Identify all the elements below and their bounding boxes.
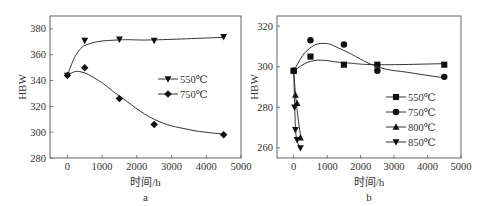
data-point-marker	[292, 91, 299, 97]
x-tick-label: 2000	[126, 161, 147, 172]
chart-panel-a: 010002000300040005000280300320340360380时…	[16, 16, 252, 203]
x-tick-label: 4000	[417, 161, 438, 172]
legend-item: 550℃	[158, 74, 208, 85]
x-tick-label: 3000	[384, 161, 405, 172]
data-point-marker	[151, 38, 158, 44]
data-point-marker	[307, 54, 313, 60]
y-tick-label: 340	[30, 75, 46, 86]
data-point-marker	[292, 127, 299, 133]
x-tick-label: 5000	[231, 161, 252, 172]
data-point-marker	[441, 62, 447, 68]
y-tick-label: 300	[30, 127, 46, 138]
legend-marker-icon	[164, 90, 171, 97]
legend-label: 750℃	[180, 89, 208, 100]
y-tick-label: 280	[257, 102, 273, 113]
x-tick-label: 1000	[317, 161, 338, 172]
legend-marker-icon	[393, 123, 400, 129]
data-point-marker	[81, 64, 88, 71]
data-point-marker	[441, 74, 447, 80]
data-point-marker	[341, 41, 347, 47]
legend-item: 850℃	[386, 137, 436, 148]
y-tick-label: 320	[30, 101, 46, 112]
legend-marker-icon	[393, 94, 399, 100]
legend-label: 550℃	[408, 92, 436, 103]
y-axis-label: HBW	[248, 74, 260, 100]
figure: 010002000300040005000280300320340360380时…	[0, 0, 482, 206]
y-tick-label: 320	[257, 21, 273, 32]
data-point-marker	[150, 121, 157, 128]
data-point-marker	[116, 95, 123, 102]
legend-label: 850℃	[408, 137, 436, 148]
legend-marker-icon	[393, 109, 399, 115]
x-tick-label: 1000	[92, 161, 113, 172]
y-tick-label: 300	[257, 61, 273, 72]
legend-item: 800℃	[386, 122, 436, 133]
y-tick-label: 360	[30, 49, 46, 60]
y-axis-label: HBW	[16, 74, 28, 100]
x-axis-label: 时间/h	[354, 176, 385, 188]
x-tick-label: 0	[291, 161, 296, 172]
x-tick-label: 0	[65, 161, 70, 172]
legend-item: 750℃	[386, 107, 436, 118]
panel-caption: a	[143, 191, 148, 203]
data-point-marker	[81, 38, 88, 44]
x-tick-label: 4000	[196, 161, 217, 172]
chart-panel-b: 010002000300040005000260280300320时间/hbHB…	[248, 16, 472, 203]
legend-marker-icon	[393, 139, 400, 145]
legend-label: 750℃	[408, 107, 436, 118]
x-axis-label: 时间/h	[130, 176, 161, 188]
legend-label: 550℃	[180, 74, 208, 85]
y-tick-label: 260	[257, 142, 273, 153]
x-tick-label: 3000	[161, 161, 182, 172]
series-750℃	[290, 37, 447, 80]
data-point-marker	[307, 37, 313, 43]
x-tick-label: 2000	[350, 161, 371, 172]
legend-marker-icon	[165, 76, 172, 82]
series-550℃	[64, 34, 227, 79]
legend-item: 750℃	[158, 89, 208, 100]
legend-label: 800℃	[408, 122, 436, 133]
data-point-marker	[341, 62, 347, 68]
y-tick-label: 280	[30, 153, 46, 164]
legend-item: 550℃	[386, 92, 436, 103]
y-tick-label: 380	[30, 23, 46, 34]
x-tick-label: 5000	[451, 161, 472, 172]
data-point-marker	[374, 68, 380, 74]
data-point-marker	[220, 131, 227, 138]
data-point-marker	[297, 145, 304, 151]
panel-caption: b	[366, 191, 372, 203]
